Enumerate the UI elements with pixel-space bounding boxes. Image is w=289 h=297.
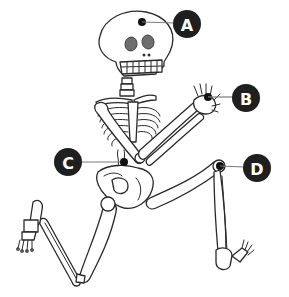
skeleton-diagram: A B C D — [0, 0, 289, 297]
left-leg — [17, 200, 117, 286]
marker-dot-c — [120, 158, 128, 166]
badge-b-text: B — [240, 90, 252, 109]
badge-a-text: A — [181, 16, 194, 35]
badge-d-text: D — [250, 160, 263, 179]
skull — [99, 11, 173, 76]
right-leg — [146, 160, 254, 269]
badge-c-text: C — [62, 154, 74, 173]
